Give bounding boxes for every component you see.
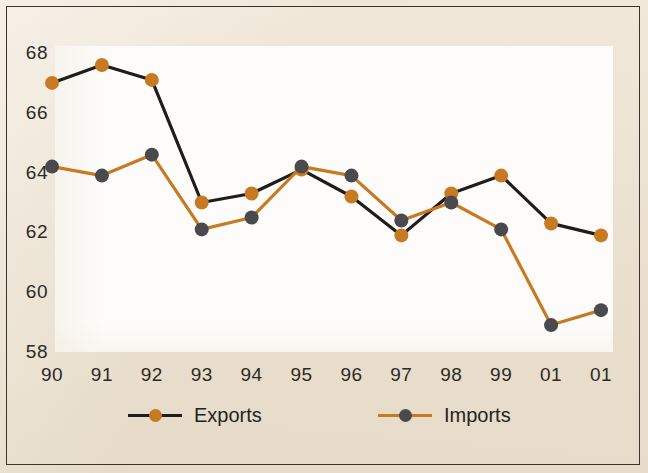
data-point — [195, 196, 209, 210]
data-point — [195, 222, 209, 236]
data-point — [494, 169, 508, 183]
data-point — [45, 76, 59, 90]
data-point — [95, 58, 109, 72]
data-point — [45, 160, 59, 174]
data-point — [444, 196, 458, 210]
legend-item-imports[interactable]: Imports — [378, 400, 511, 430]
legend-dot-icon — [399, 409, 412, 422]
data-point — [295, 160, 309, 174]
series-line-imports — [52, 155, 601, 325]
data-point — [594, 228, 608, 242]
data-point — [594, 303, 608, 317]
data-point — [394, 213, 408, 227]
data-point — [494, 222, 508, 236]
legend-label: Imports — [444, 404, 511, 427]
legend-swatch — [128, 406, 182, 424]
data-point — [95, 169, 109, 183]
chart-legend: ExportsImports — [0, 400, 648, 434]
data-point — [544, 318, 558, 332]
data-point — [394, 228, 408, 242]
series-markers-imports — [45, 148, 608, 332]
legend-swatch — [378, 406, 432, 424]
series-line-exports — [52, 65, 601, 235]
series-markers-exports — [45, 58, 608, 242]
data-point — [145, 73, 159, 87]
data-point — [344, 169, 358, 183]
legend-item-exports[interactable]: Exports — [128, 400, 262, 430]
data-point — [344, 190, 358, 204]
data-point — [245, 187, 259, 201]
data-point — [245, 210, 259, 224]
legend-label: Exports — [194, 404, 262, 427]
data-point — [544, 216, 558, 230]
data-point — [145, 148, 159, 162]
chart-figure: Exports and Imports 586062646668 9091929… — [0, 0, 648, 473]
legend-dot-icon — [149, 409, 162, 422]
